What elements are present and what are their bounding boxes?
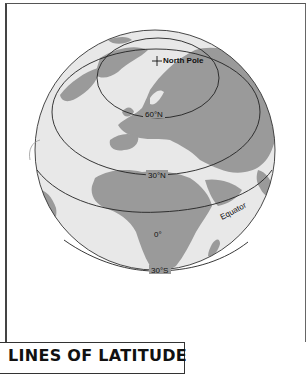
latitude-30n-label: 30°N: [148, 171, 166, 180]
latitude-30s-label: 30°S: [151, 266, 168, 275]
north-pole-label: North Pole: [163, 56, 204, 65]
equator-degree-label: 0°: [154, 230, 162, 239]
figure-title: LINES OF LATITUDE: [8, 346, 187, 365]
figure-title-box: LINES OF LATITUDE: [0, 342, 185, 374]
latitude-60n-label: 60°N: [145, 110, 163, 119]
